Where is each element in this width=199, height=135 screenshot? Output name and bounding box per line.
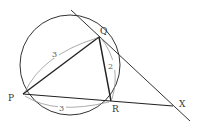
measure-PR: 3 <box>59 104 64 113</box>
segment-PQ <box>23 37 99 94</box>
label-P: P <box>8 93 14 103</box>
geometry-figure: 3 3 2 Q P R X <box>0 0 199 135</box>
label-X: X <box>179 99 186 109</box>
tangent-line <box>71 10 190 121</box>
measure-PQ: 3 <box>52 50 57 59</box>
label-R: R <box>112 104 119 114</box>
label-Q: Q <box>100 26 107 36</box>
measure-QR: 2 <box>108 62 113 71</box>
